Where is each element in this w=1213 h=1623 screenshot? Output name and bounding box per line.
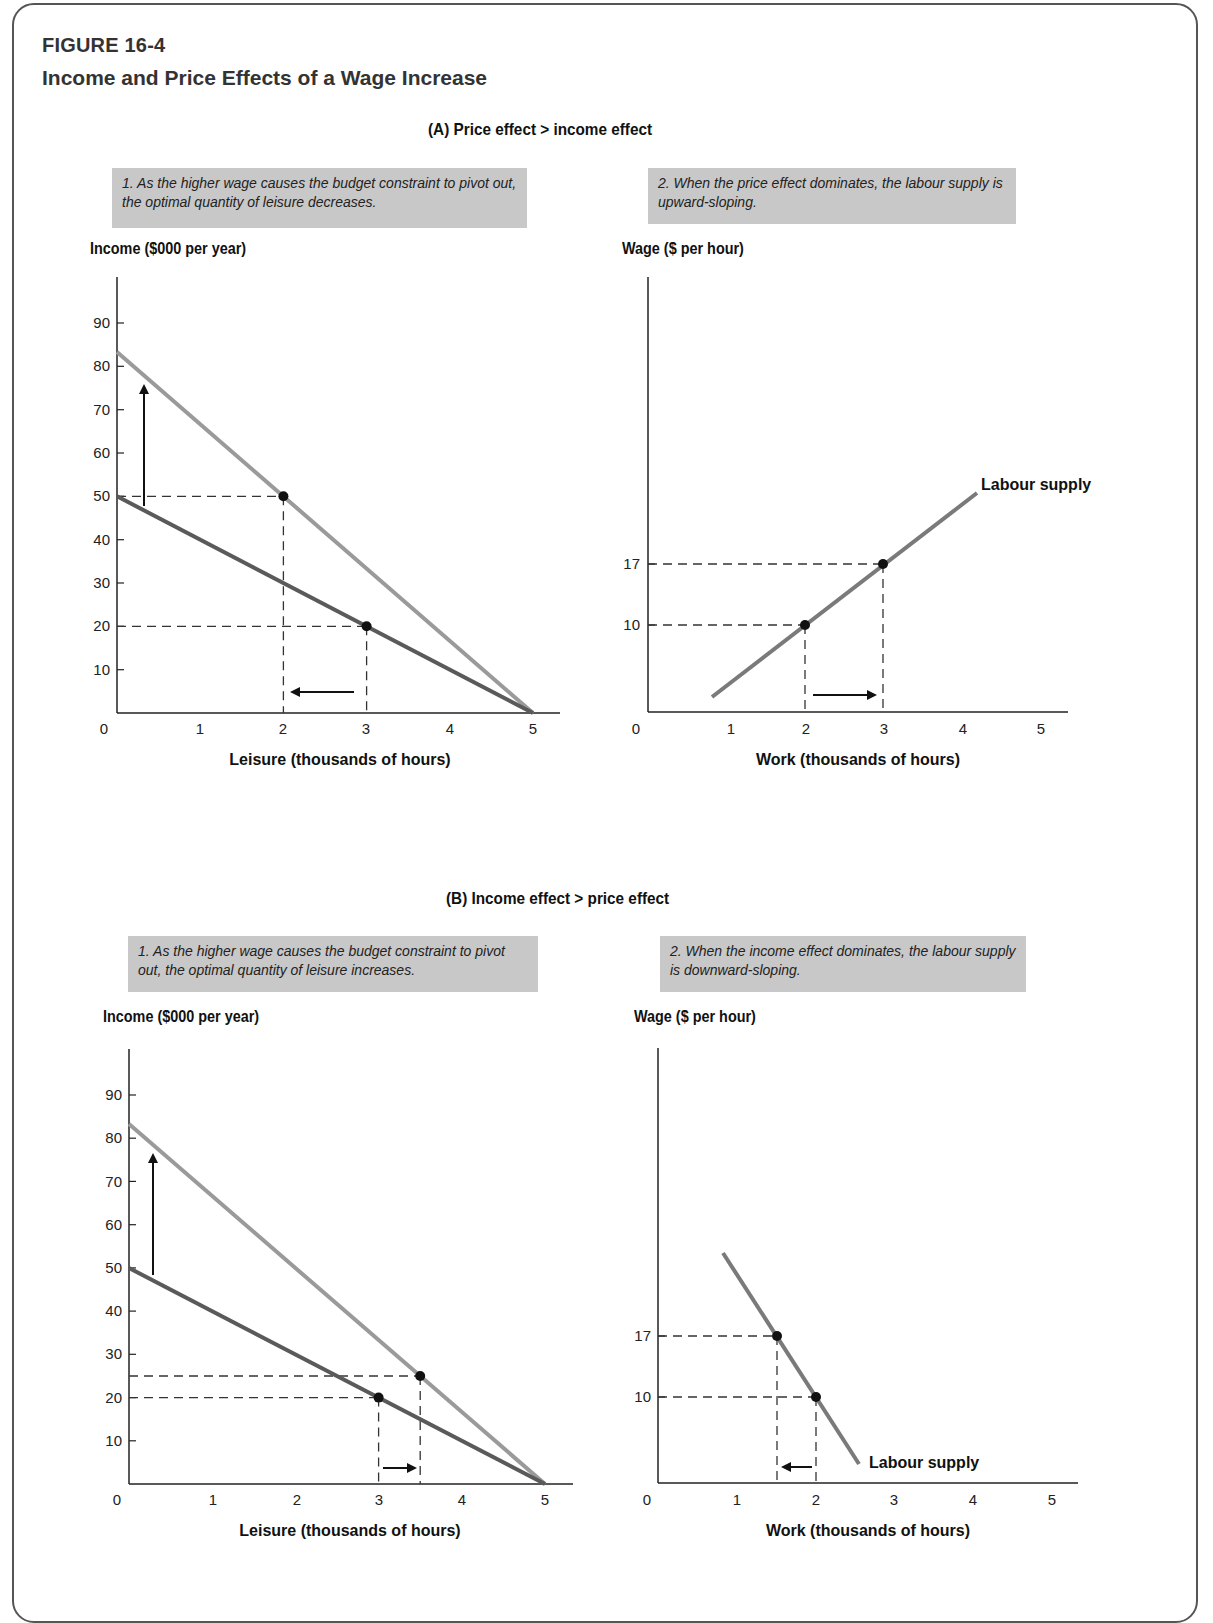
initial-optimum-point (362, 621, 372, 631)
new-optimum-point (415, 1371, 425, 1381)
svg-text:5: 5 (1048, 1491, 1056, 1508)
y-tick-labels: 90 80 70 60 50 40 30 20 10 (93, 314, 110, 678)
svg-text:17: 17 (623, 555, 640, 572)
svg-text:50: 50 (93, 487, 110, 504)
svg-text:2: 2 (802, 720, 810, 737)
svg-text:10: 10 (634, 1388, 651, 1405)
svg-text:80: 80 (105, 1129, 122, 1146)
x-axis-label: Leisure (thousands of hours) (239, 1522, 460, 1539)
svg-text:3: 3 (362, 720, 370, 737)
x-tick-labels: 0 1 2 3 4 5 (113, 1491, 549, 1508)
svg-text:90: 90 (105, 1086, 122, 1103)
svg-text:3: 3 (375, 1491, 383, 1508)
svg-text:60: 60 (105, 1216, 122, 1233)
svg-text:10: 10 (623, 616, 640, 633)
labour-supply-label: Labour supply (981, 476, 1091, 493)
svg-text:0: 0 (643, 1491, 651, 1508)
svg-text:70: 70 (93, 401, 110, 418)
svg-text:40: 40 (105, 1302, 122, 1319)
svg-text:60: 60 (93, 444, 110, 461)
svg-text:0: 0 (113, 1491, 121, 1508)
svg-text:0: 0 (632, 720, 640, 737)
old-budget-line (117, 496, 533, 713)
point-2-10 (811, 1392, 821, 1402)
svg-text:3: 3 (880, 720, 888, 737)
svg-text:20: 20 (93, 617, 110, 634)
svg-text:4: 4 (959, 720, 967, 737)
svg-text:4: 4 (458, 1491, 466, 1508)
point-3-17 (878, 559, 888, 569)
x-axis-label: Work (thousands of hours) (756, 751, 960, 768)
svg-text:1: 1 (196, 720, 204, 737)
labour-supply-curve (712, 493, 977, 697)
x-tick-labels: 0 1 2 3 4 5 (632, 720, 1045, 737)
svg-text:2: 2 (812, 1491, 820, 1508)
x-axis-label: Leisure (thousands of hours) (229, 751, 450, 768)
chart-b-right: 17 10 0 1 2 3 4 5 Work (thousands of hou… (634, 1048, 1078, 1539)
svg-text:10: 10 (93, 661, 110, 678)
svg-text:1: 1 (733, 1491, 741, 1508)
svg-text:2: 2 (293, 1491, 301, 1508)
point-2-10 (800, 620, 810, 630)
guide-lines (648, 564, 883, 712)
point-1.5-17 (772, 1331, 782, 1341)
svg-text:20: 20 (105, 1389, 122, 1406)
y-tick-labels: 17 10 (623, 555, 640, 633)
svg-text:70: 70 (105, 1173, 122, 1190)
new-budget-line (129, 1124, 545, 1484)
svg-text:30: 30 (93, 574, 110, 591)
new-optimum-point (278, 491, 288, 501)
x-axis-label: Work (thousands of hours) (766, 1522, 970, 1539)
svg-text:3: 3 (890, 1491, 898, 1508)
svg-text:5: 5 (541, 1491, 549, 1508)
svg-text:5: 5 (529, 720, 537, 737)
initial-optimum-point (374, 1393, 384, 1403)
svg-text:10: 10 (105, 1432, 122, 1449)
new-budget-line (117, 352, 533, 713)
labour-supply-curve (723, 1253, 859, 1464)
svg-text:2: 2 (279, 720, 287, 737)
labour-supply-label: Labour supply (869, 1454, 979, 1471)
svg-text:17: 17 (634, 1327, 651, 1344)
svg-text:1: 1 (727, 720, 735, 737)
chart-b-left: 90 80 70 60 50 40 30 20 10 0 1 2 3 4 5 L… (105, 1049, 573, 1539)
svg-text:30: 30 (105, 1345, 122, 1362)
svg-text:80: 80 (93, 357, 110, 374)
svg-text:4: 4 (446, 720, 454, 737)
chart-a-right: 17 10 0 1 2 3 4 5 Work (thousands of hou… (623, 277, 1091, 768)
x-tick-labels: 0 1 2 3 4 5 (643, 1491, 1056, 1508)
svg-text:5: 5 (1037, 720, 1045, 737)
svg-text:0: 0 (100, 720, 108, 737)
y-tick-labels: 17 10 (634, 1327, 651, 1405)
guide-lines (129, 1376, 420, 1484)
svg-text:1: 1 (209, 1491, 217, 1508)
y-tick-labels: 90 80 70 60 50 40 30 20 10 (105, 1086, 122, 1449)
svg-text:4: 4 (969, 1491, 977, 1508)
svg-text:50: 50 (105, 1259, 122, 1276)
svg-text:40: 40 (93, 531, 110, 548)
x-tick-labels: 0 1 2 3 4 5 (100, 720, 537, 737)
chart-a-left: 90 80 70 60 50 40 30 20 10 0 1 2 3 4 5 L… (93, 277, 560, 768)
svg-text:90: 90 (93, 314, 110, 331)
